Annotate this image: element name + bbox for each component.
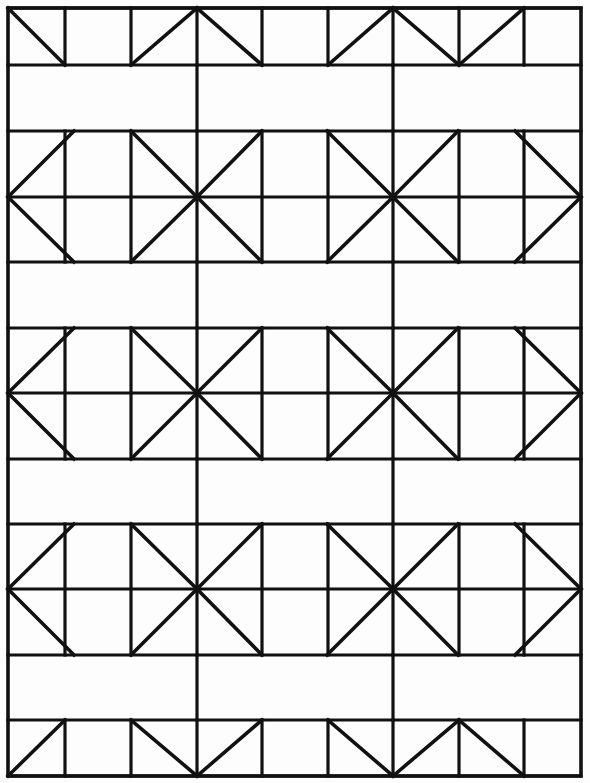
pattern-canvas: [0, 0, 590, 783]
geometric-pattern-drawing: [0, 0, 590, 783]
